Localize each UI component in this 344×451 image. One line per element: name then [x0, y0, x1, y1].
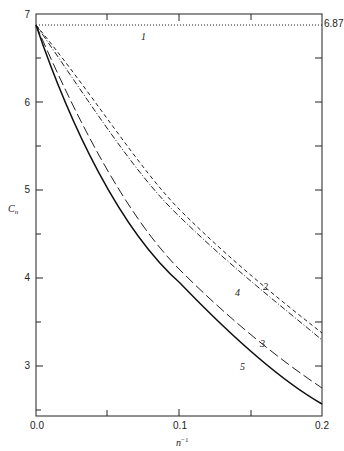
x-tick-0: 0.0 [30, 420, 44, 431]
y-tick-6: 6 [24, 97, 30, 108]
curve-5 [36, 25, 322, 404]
x-ticks [107, 14, 251, 416]
limit-annotation: 6.87 [324, 18, 344, 29]
curve-4 [36, 25, 322, 340]
curve-label-4: 4 [235, 287, 240, 298]
curve-label-5: 5 [240, 361, 245, 372]
plot-frame [36, 14, 322, 416]
y-tick-5: 5 [24, 184, 30, 195]
chart: 7 6 5 4 3 0.0 0.1 0.2 n−1 Cn 6.87 1 2 4 … [0, 0, 344, 451]
x-tick-0.2: 0.2 [315, 420, 329, 431]
y-tick-7: 7 [24, 9, 30, 20]
curve-3 [36, 25, 322, 388]
x-axis-label: n−1 [176, 436, 189, 448]
y-ticks [36, 58, 322, 410]
y-axis-label: Cn [8, 203, 19, 216]
y-tick-3: 3 [24, 360, 30, 371]
curve-label-3: 3 [259, 338, 265, 349]
curve-label-2: 2 [263, 281, 268, 292]
x-tick-0.1: 0.1 [173, 420, 187, 431]
curve-2 [36, 25, 322, 333]
y-tick-4: 4 [24, 272, 30, 283]
curve-label-1: 1 [141, 31, 146, 42]
